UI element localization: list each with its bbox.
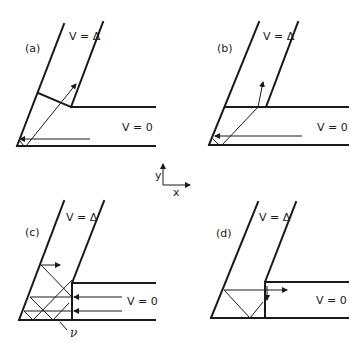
region-label-upper: V = Δ — [259, 211, 291, 224]
region-label-upper: V = Δ — [69, 30, 101, 43]
x-axis-label: x — [173, 186, 180, 199]
y-axis-label: y — [155, 169, 162, 182]
panel-a: (a) V = Δ V = 0 — [17, 22, 155, 146]
region-label-lower: V = 0 — [127, 295, 158, 308]
panel-label: (d) — [216, 227, 232, 240]
angle-label: ν — [70, 326, 77, 340]
panel-label: (b) — [217, 42, 233, 55]
panel-label: (c) — [25, 226, 40, 239]
region-label-lower: V = 0 — [122, 121, 153, 134]
axes-indicator: y x — [155, 164, 190, 199]
panel-d: (d) V = Δ V = 0 — [211, 202, 348, 318]
diagram-canvas: (a) V = Δ V = 0 (b) V = Δ V = 0 y x — [0, 0, 361, 343]
region-label-lower: V = 0 — [316, 294, 347, 307]
region-label-upper: V = Δ — [66, 211, 98, 224]
panel-c: ν (c) V = Δ V = 0 — [19, 201, 158, 340]
panel-b: (b) V = Δ V = 0 — [209, 22, 348, 145]
panel-label: (a) — [25, 42, 40, 55]
region-label-lower: V = 0 — [317, 121, 348, 134]
region-label-upper: V = Δ — [263, 30, 295, 43]
